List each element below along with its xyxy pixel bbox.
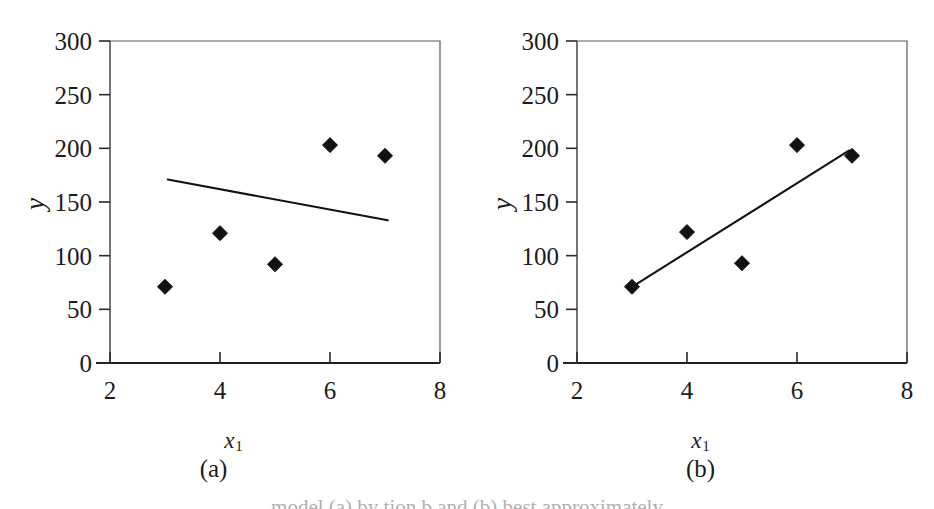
y-tick-label-a-3: 150 (55, 189, 93, 216)
data-point-marker (845, 148, 860, 163)
y-tick-label-a-0: 0 (80, 350, 93, 377)
y-tick-label-a-6: 300 (55, 28, 93, 55)
data-point-marker (735, 256, 750, 271)
data-point-marker (158, 279, 173, 294)
panel-letter-a: (a) (0, 455, 447, 483)
x-axis-label-b-subscript: 1 (701, 438, 710, 454)
x-axis-label-a: x1 (0, 428, 467, 455)
chart-panel-a: 0501001502002503002468y x1 (a) (0, 0, 467, 509)
x-tick-label-b-0: 2 (571, 377, 584, 404)
y-axis-label-a: y (20, 198, 50, 213)
x-tick-label-b-2: 6 (791, 377, 804, 404)
y-tick-label-a-2: 100 (55, 243, 93, 270)
x-tick-label-a-1: 4 (214, 377, 227, 404)
x-axis-label-b-var: x (691, 428, 701, 453)
plot-area-b: 0501001502002503002468y (467, 0, 934, 420)
x-tick-label-a-2: 6 (324, 377, 337, 404)
data-point-marker (213, 226, 228, 241)
panel-letter-b: (b) (467, 455, 934, 483)
data-point-marker (268, 257, 283, 272)
y-tick-label-b-3: 150 (522, 189, 560, 216)
data-point-marker (790, 138, 805, 153)
x-tick-label-a-3: 8 (434, 377, 447, 404)
data-point-marker (680, 225, 695, 240)
x-tick-label-a-0: 2 (104, 377, 117, 404)
x-axis-label-a-subscript: 1 (234, 438, 243, 454)
y-tick-label-b-1: 50 (534, 296, 559, 323)
plot-frame-b (577, 41, 907, 363)
plot-area-a: 0501001502002503002468y (0, 0, 467, 420)
x-tick-label-b-3: 8 (901, 377, 914, 404)
x-axis-label-b: x1 (467, 428, 934, 455)
y-axis-label-b: y (487, 198, 517, 213)
y-tick-label-b-2: 100 (522, 243, 560, 270)
y-tick-label-a-4: 200 (55, 135, 93, 162)
y-tick-label-b-4: 200 (522, 135, 560, 162)
x-tick-label-b-1: 4 (681, 377, 694, 404)
y-tick-label-a-1: 50 (67, 296, 92, 323)
plot-frame-a (110, 41, 440, 363)
figure-container: 0501001502002503002468y x1 (a) 050100150… (0, 0, 934, 509)
x-axis-label-a-var: x (224, 428, 234, 453)
y-tick-label-b-6: 300 (522, 28, 560, 55)
data-point-marker (323, 138, 338, 153)
data-point-marker (378, 148, 393, 163)
y-tick-label-b-5: 250 (522, 82, 560, 109)
y-tick-label-a-5: 250 (55, 82, 93, 109)
figure-bottom-caption: model (a) by tion b and (b) best approxi… (0, 492, 934, 509)
regression-line-a (168, 179, 388, 220)
y-tick-label-b-0: 0 (547, 350, 560, 377)
